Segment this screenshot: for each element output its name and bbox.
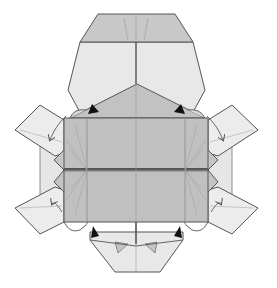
head-tip [80, 14, 193, 42]
left-bottom-curl [64, 222, 88, 231]
rear-left-flipper [15, 187, 64, 234]
rear-right-flipper [208, 187, 258, 234]
origami-diagram [0, 0, 277, 288]
diagram-canvas [0, 0, 277, 288]
right-bottom-curl [184, 222, 208, 231]
